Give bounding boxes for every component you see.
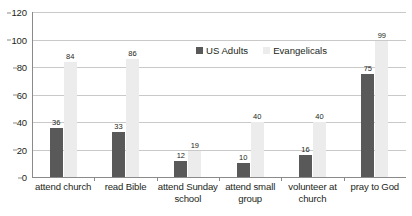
bar [112,132,125,177]
y-axis-tick-label: 120 [11,7,32,18]
y-axis-tick-mark [7,12,11,13]
bar [50,128,63,178]
bar-value-label: 12 [177,152,185,160]
bar-value-label: 36 [52,119,60,127]
bar [64,62,77,178]
bar-group: 1040 [219,12,281,177]
bar-wrap: 12 [174,12,187,177]
bar-wrap: 36 [50,12,63,177]
bar-wrap: 99 [375,12,388,177]
x-axis-category-label: pray to God [344,181,406,193]
x-axis-category-label: attend small group [219,181,281,204]
y-axis-tick-label: 60 [17,89,32,100]
bar-wrap: 84 [64,12,77,177]
y-axis-line [32,12,33,178]
bar-group: 1640 [281,12,343,177]
bar [174,161,187,178]
legend-item-evangelicals: Evangelicals [263,45,327,56]
bar-value-label: 40 [315,113,323,121]
bar [299,155,312,177]
bar-value-label: 99 [378,32,386,40]
legend-swatch-icon-us-adults [196,47,203,54]
bar [237,163,250,177]
y-axis-tick-label: 0 [22,172,32,183]
bar-value-label: 75 [364,65,372,73]
legend-label-evangelicals: Evangelicals [273,45,327,56]
bar-chart: 120100806040200 368433861219104016407599… [0,0,412,216]
bar [188,151,201,177]
bar [375,41,388,177]
x-axis-category-label: volunteer at church [281,181,343,204]
legend-label-us-adults: US Adults [206,45,248,56]
bar-value-label: 16 [301,146,309,154]
legend-item-us-adults: US Adults [196,45,248,56]
x-axis-category-label: read Bible [94,181,156,193]
bar-wrap: 16 [299,12,312,177]
y-axis-tick-mark [13,150,17,151]
bar-wrap: 40 [313,12,326,177]
bar-group: 3684 [32,12,94,177]
bar [251,122,264,177]
y-axis-tick-label: 100 [11,34,32,45]
bar-value-label: 10 [239,154,247,162]
y-axis-tick-mark [7,40,11,41]
bar-group: 3386 [94,12,156,177]
bar-wrap: 19 [188,12,201,177]
legend-swatch-icon-evangelicals [263,47,270,54]
bar-wrap: 75 [361,12,374,177]
bar-value-label: 33 [114,123,122,131]
bar-value-label: 40 [253,113,261,121]
y-axis-tick-mark [18,177,22,178]
plot-area: 120100806040200 368433861219104016407599 [32,12,406,177]
y-axis-tick-mark [13,95,17,96]
bar [126,59,139,177]
bar-value-label: 86 [128,50,136,58]
bar [313,122,326,177]
y-axis-tick-label: 20 [17,144,32,155]
bar-wrap: 33 [112,12,125,177]
y-axis-tick-mark [13,67,17,68]
x-axis-category-labels: attend churchread Bibleattend Sunday sch… [32,181,406,216]
clipped-chart-title [0,0,412,4]
y-axis-tick-mark [13,122,17,123]
bar-value-label: 19 [191,142,199,150]
x-axis-category-label: attend Sunday school [157,181,219,204]
bar-wrap: 10 [237,12,250,177]
bar-value-label: 84 [66,53,74,61]
x-axis-category-label: attend church [32,181,94,193]
chart-legend: US Adults Evangelicals [196,45,327,56]
bar-group: 1219 [157,12,219,177]
y-axis-tick-label: 40 [17,117,32,128]
bar [361,74,374,177]
bar-wrap: 86 [126,12,139,177]
bar-group: 7599 [344,12,406,177]
bar-wrap: 40 [251,12,264,177]
y-axis-tick-label: 80 [17,62,32,73]
